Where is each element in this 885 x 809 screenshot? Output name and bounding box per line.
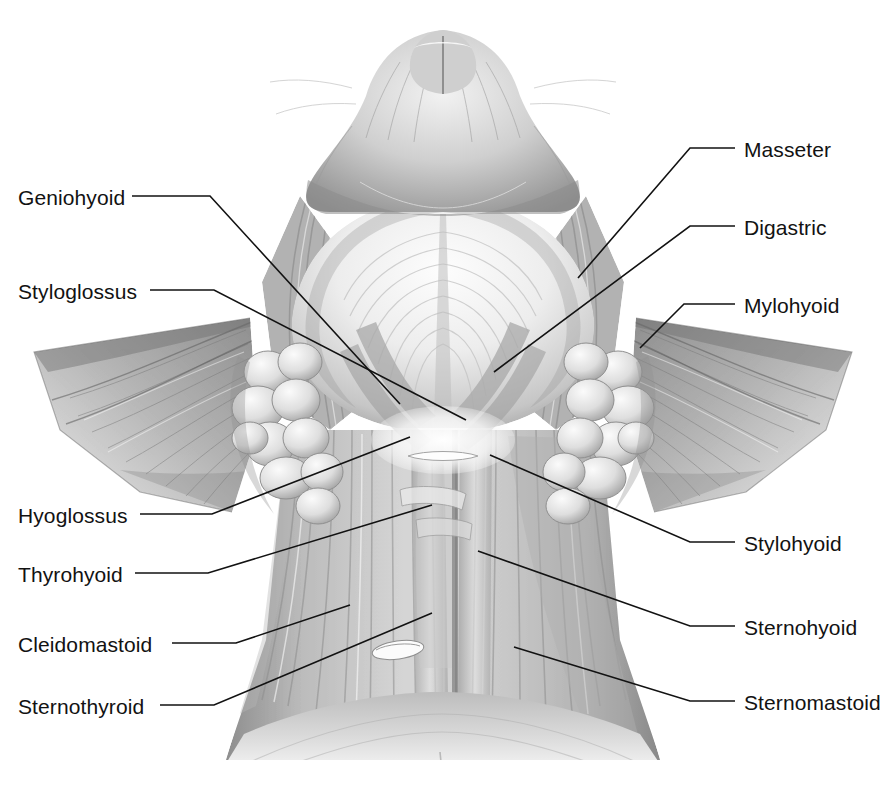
label-styloglossus: Styloglossus [18, 281, 137, 302]
label-geniohyoid: Geniohyoid [18, 187, 125, 208]
label-stylohyoid: Stylohyoid [744, 533, 842, 554]
label-sternothyroid: Sternothyroid [18, 696, 144, 717]
hyoid-highlight [371, 406, 515, 474]
label-digastric: Digastric [744, 217, 827, 238]
label-cleidomastoid: Cleidomastoid [18, 634, 152, 655]
label-thyrohyoid: Thyrohyoid [18, 564, 123, 585]
figure-canvas: GeniohyoidStyloglossusHyoglossusThyrohyo… [0, 0, 885, 809]
label-mylohyoid: Mylohyoid [744, 295, 839, 316]
label-sternohyoid: Sternohyoid [744, 617, 857, 638]
label-hyoglossus: Hyoglossus [18, 505, 128, 526]
label-sternomastoid: Sternomastoid [744, 692, 881, 713]
anatomy-illustration [0, 0, 885, 809]
hyoid-body [408, 452, 478, 461]
label-masseter: Masseter [744, 139, 831, 160]
